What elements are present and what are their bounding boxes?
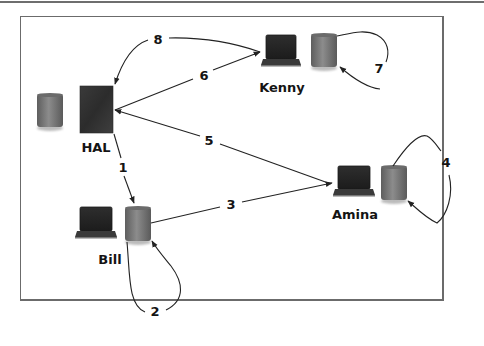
edge-label-8: 8: [153, 32, 162, 47]
edge-label-3: 3: [226, 197, 235, 212]
node-label-amina: Amina: [332, 207, 378, 222]
edge-3-bill-to-amina: [151, 207, 220, 223]
edge-2-bill-loop: [127, 242, 145, 312]
network-diagram: HAL Kenny Amina: [0, 0, 484, 346]
edge-8-kenny-to-hal: [169, 38, 260, 52]
laptop-icon: [333, 166, 375, 197]
node-label-bill: Bill: [98, 252, 121, 267]
edge-8-kenny-to-hal-head: [115, 40, 148, 84]
edge-label-5: 5: [204, 133, 213, 148]
edge-6-hal-to-kenny: [115, 79, 193, 110]
node-label-hal: HAL: [81, 140, 110, 155]
node-hal: HAL: [37, 86, 113, 155]
edge-2-bill-loop-head: [152, 241, 181, 310]
laptop-icon: [75, 207, 117, 239]
node-bill: Bill: [75, 206, 151, 267]
node-amina: Amina: [332, 165, 407, 222]
edge-label-7: 7: [374, 61, 383, 76]
edge-1-hal-to-bill-head: [124, 176, 134, 203]
edge-6-hal-to-kenny-head: [213, 52, 260, 70]
edge-label-2: 2: [150, 304, 159, 319]
edge-label-4: 4: [441, 155, 450, 170]
edge-1-hal-to-bill: [114, 134, 121, 158]
laptop-icon: [261, 35, 301, 67]
edge-label-1: 1: [118, 160, 127, 175]
edge-3-bill-to-amina-head: [242, 183, 332, 202]
database-cylinder-icon: [311, 33, 337, 71]
edge-4-amina-loop: [393, 136, 441, 166]
node-label-kenny: Kenny: [259, 80, 305, 95]
edge-5-amina-to-hal: [220, 144, 331, 184]
server-icon: [80, 86, 113, 133]
database-cylinder-icon: [381, 165, 407, 204]
edge-label-6: 6: [199, 68, 208, 83]
database-cylinder-icon: [37, 93, 63, 131]
edge-5-amina-to-hal-head: [115, 110, 200, 136]
node-kenny: Kenny: [259, 33, 337, 95]
edge-7-kenny-loop: [337, 32, 388, 62]
database-cylinder-icon: [125, 206, 151, 245]
edge-4-amina-loop-head: [408, 175, 451, 223]
